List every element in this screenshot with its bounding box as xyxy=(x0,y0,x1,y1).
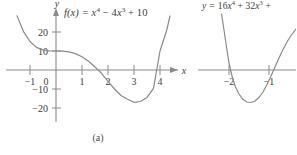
textbook-figure: −1 0 1 2 3 4 20 10 −10 −20 x y f(x) = x4… xyxy=(0,0,296,155)
y-axis-a xyxy=(53,8,59,122)
eq-b-lhs: y = xyxy=(202,1,218,11)
y-tick-label: 20 xyxy=(38,27,48,38)
eq-a-op1: − xyxy=(100,7,111,18)
y-tick-label: −10 xyxy=(32,84,48,95)
graph-panel-b: −2 −1 y = 16x4 + 32x3 + xyxy=(196,0,296,155)
y-tick-label: −20 xyxy=(32,103,48,114)
panel-b-plot: −2 −1 xyxy=(196,0,296,132)
equation-label-b: y = 16x4 + 32x3 + xyxy=(202,1,271,11)
eq-a-op2: + xyxy=(125,7,136,18)
figure-caption-a: (a) xyxy=(0,132,196,143)
equation-label-a: f(x) = x4 − 4x3 + 10 xyxy=(64,7,148,18)
eq-a-lhs: f(x) = xyxy=(64,7,92,18)
x-tick-label: 4 xyxy=(158,76,163,87)
y-axis-label: y xyxy=(54,0,60,9)
y-tick-label: 10 xyxy=(38,46,48,57)
x-tick-label: 1 xyxy=(80,76,85,87)
x-axis-a xyxy=(6,67,178,73)
eq-b-t2-coef: 32 xyxy=(246,1,256,11)
panel-a-plot: −1 0 1 2 3 4 20 10 −10 −20 x y xyxy=(0,0,196,132)
x-axis-label: x xyxy=(181,65,187,76)
eq-b-op2: + xyxy=(263,1,271,11)
graph-panel-a: −1 0 1 2 3 4 20 10 −10 −20 x y f(x) = x4… xyxy=(0,0,196,155)
curve-yb xyxy=(222,14,297,103)
eq-a-t3: 10 xyxy=(137,7,148,18)
x-tick-label: 3 xyxy=(132,76,137,87)
eq-b-op1: + xyxy=(235,1,245,11)
